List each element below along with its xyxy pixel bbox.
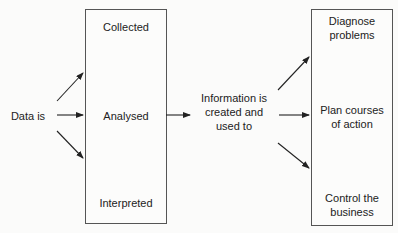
arrow-info-to-diagnose: [278, 57, 309, 90]
arrows-layer: [0, 0, 398, 233]
arrow-data-to-collected: [57, 73, 83, 101]
arrow-data-to-interpreted: [57, 131, 83, 158]
arrow-info-to-control: [278, 143, 309, 168]
